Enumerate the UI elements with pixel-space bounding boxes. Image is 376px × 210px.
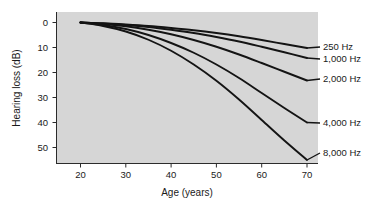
series-label-4000hz: 4,000 Hz	[323, 117, 361, 128]
y-axis-ticks	[53, 23, 57, 148]
leader-1000hz	[307, 58, 320, 59]
x-axis-title: Age (years)	[161, 187, 213, 198]
y-tick-label-0: 0	[43, 17, 48, 28]
leader-2000hz	[307, 79, 320, 81]
series-leader-lines	[307, 47, 320, 160]
y-axis-title: Hearing loss (dB)	[11, 49, 22, 126]
curve-8000hz	[81, 23, 308, 161]
chart-svg: 0 10 20 30 40 50 20 30 40 50 60 70 Age (…	[0, 0, 376, 210]
series-labels: 250 Hz 1,000 Hz 2,000 Hz 4,000 Hz 8,000 …	[323, 41, 361, 158]
x-tick-label-30: 30	[121, 169, 132, 180]
leader-8000hz	[307, 153, 320, 160]
data-curves	[81, 23, 308, 161]
y-tick-label-50: 50	[37, 142, 48, 153]
leader-4000hz	[307, 123, 320, 124]
curve-4000hz	[81, 23, 308, 123]
y-tick-label-20: 20	[37, 67, 48, 78]
series-label-250hz: 250 Hz	[323, 41, 353, 52]
series-label-2000hz: 2,000 Hz	[323, 73, 361, 84]
y-tick-label-10: 10	[37, 42, 48, 53]
hearing-loss-figure: 0 10 20 30 40 50 20 30 40 50 60 70 Age (…	[0, 0, 376, 210]
x-tick-label-40: 40	[166, 169, 177, 180]
series-label-8000hz: 8,000 Hz	[323, 147, 361, 158]
leader-250hz	[307, 47, 320, 48]
y-tick-label-40: 40	[37, 117, 48, 128]
y-tick-label-30: 30	[37, 92, 48, 103]
y-axis-tick-labels: 0 10 20 30 40 50	[37, 17, 48, 153]
x-axis-tick-labels: 20 30 40 50 60 70	[75, 169, 312, 180]
x-tick-label-50: 50	[211, 169, 222, 180]
x-tick-label-70: 70	[302, 169, 313, 180]
series-label-1000hz: 1,000 Hz	[323, 53, 361, 64]
x-tick-label-60: 60	[256, 169, 267, 180]
x-tick-label-20: 20	[75, 169, 86, 180]
x-axis-ticks	[81, 164, 308, 168]
